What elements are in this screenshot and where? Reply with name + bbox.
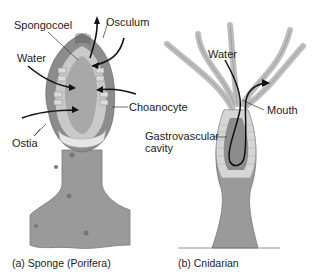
caption-sponge: (a) Sponge (Porifera) [12, 257, 111, 269]
caption-cnidarian: (b) Cnidarian [178, 257, 239, 269]
label-water-sponge: Water [17, 53, 46, 64]
label-spongocoel: Spongocoel [14, 20, 72, 31]
label-gastrovascular-line2: cavity [145, 143, 173, 154]
caption-letter-b: (b) [178, 257, 191, 269]
label-water-cnidarian: Water [208, 49, 237, 60]
label-ostia: Ostia [12, 138, 38, 149]
label-osculum: Osculum [106, 17, 149, 28]
label-mouth: Mouth [267, 105, 298, 116]
caption-letter-a: (a) [12, 257, 25, 269]
label-gastrovascular-line1: Gastrovascular [145, 131, 219, 142]
label-choanocyte: Choanocyte [129, 102, 188, 113]
caption-text-a: Sponge (Porifera) [28, 257, 111, 269]
sponge-illustration [30, 33, 130, 248]
caption-text-b: Cnidarian [194, 257, 239, 269]
